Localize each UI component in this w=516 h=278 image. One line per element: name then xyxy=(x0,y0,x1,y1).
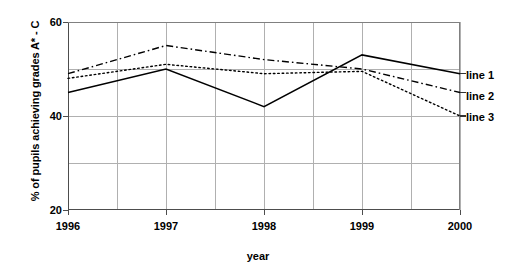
y-tick-label-20: 20 xyxy=(36,205,62,216)
legend-item-line-1: line 1 xyxy=(466,70,494,81)
x-tick-label-1997: 1997 xyxy=(141,221,191,232)
x-tick-label-2000: 2000 xyxy=(435,221,485,232)
plot-svg xyxy=(68,22,460,210)
gridlines xyxy=(68,22,461,210)
legend-item-line-2: line 2 xyxy=(466,91,494,102)
line-chart: % of pupils achieving grades A* - C 60 4… xyxy=(0,0,516,278)
x-tick-label-1998: 1998 xyxy=(239,221,289,232)
x-tick-label-1996: 1996 xyxy=(43,221,93,232)
axis-ticks xyxy=(63,23,461,216)
x-tick-label-1999: 1999 xyxy=(337,221,387,232)
y-tick-label-40: 40 xyxy=(36,111,62,122)
x-axis-title: year xyxy=(0,250,516,262)
plot-area xyxy=(68,22,460,210)
legend-item-line-3: line 3 xyxy=(466,112,494,123)
y-tick-label-60: 60 xyxy=(36,17,62,28)
